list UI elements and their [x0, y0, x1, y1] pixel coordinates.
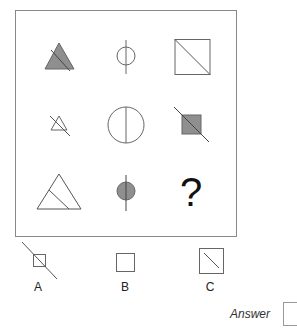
- option-a-label[interactable]: A: [34, 280, 42, 294]
- missing-cell-question-mark: ?: [180, 172, 202, 212]
- option-b-figure[interactable]: [117, 254, 135, 272]
- cell-r2-c1-small-triangle-icon: [50, 116, 70, 136]
- cell-r1-c2-circle-line-icon: [117, 40, 135, 74]
- option-a-figure[interactable]: [22, 242, 57, 279]
- cell-r1-c3-square-diagonal-icon: [175, 40, 210, 75]
- answer-label: Answer: [230, 307, 270, 321]
- cell-r3-c2-filled-circle-icon: [117, 175, 135, 211]
- cell-r2-c2-large-circle-icon: [108, 107, 144, 143]
- cell-r3-c1-large-triangle-icon: [37, 174, 81, 209]
- option-b-label[interactable]: B: [121, 280, 129, 294]
- option-c-figure[interactable]: [200, 249, 224, 274]
- cell-r1-c1-filled-triangle-icon: [45, 43, 74, 71]
- cell-r2-c3-filled-square-icon: [174, 107, 209, 142]
- option-c-label[interactable]: C: [206, 280, 215, 294]
- answer-input-box[interactable]: [283, 302, 297, 326]
- puzzle-figure: [0, 0, 297, 328]
